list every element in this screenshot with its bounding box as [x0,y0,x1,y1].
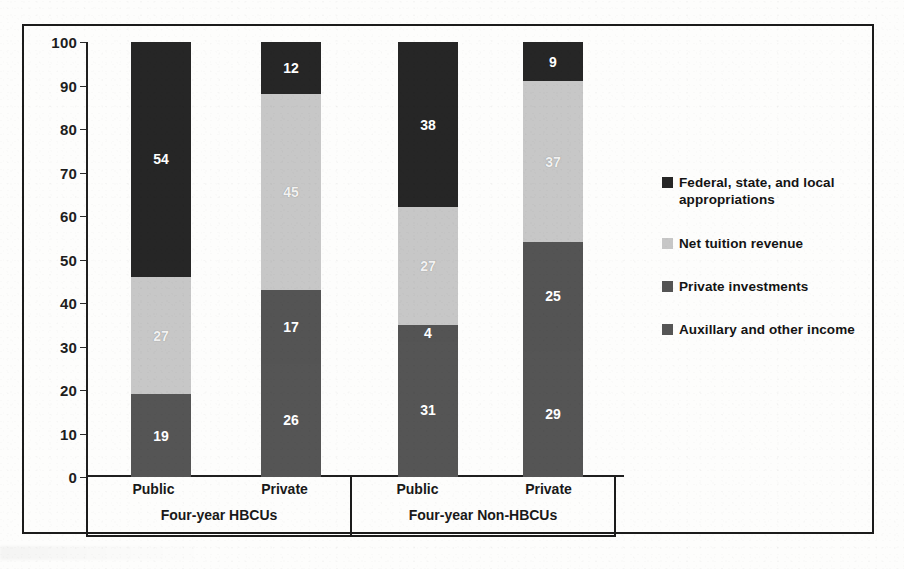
y-axis-tick-mark [80,303,86,304]
bar-segment[interactable]: 38 [398,42,458,207]
legend-label: Net tuition revenue [679,235,803,252]
x-axis-group-label: Four-year Non-HBCUs [352,507,614,523]
bar-segment[interactable]: 19 [131,394,191,477]
y-axis-tick-mark [80,86,86,87]
legend-item[interactable]: Private investments [662,278,862,295]
y-axis-tick-label: 30 [60,338,77,355]
y-axis-tick-label: 100 [51,34,77,51]
legend-swatch-icon [662,324,673,335]
chart-frame: 1927542617451231427382925379 01020304050… [22,24,874,534]
x-axis-group: PublicPrivateFour-year HBCUs [88,477,350,535]
bar-segment[interactable]: 26 [261,364,321,477]
y-axis-tick-mark [80,434,86,435]
y-axis-tick-label: 80 [60,121,77,138]
stacked-bar[interactable]: 26174512 [261,42,321,477]
legend-swatch-icon [662,281,673,292]
y-axis-tick-mark [80,173,86,174]
bar-series-container: 1927542617451231427382925379 [86,42,616,477]
bar-segment[interactable]: 9 [523,42,583,81]
bar-segment[interactable]: 25 [523,242,583,351]
bar-segment[interactable]: 27 [398,207,458,324]
x-axis-group-box: PublicPrivateFour-year HBCUsPublicPrivat… [86,477,616,537]
y-axis-tick-mark [80,390,86,391]
chart-legend: Federal, state, and local appropriations… [662,174,862,364]
y-axis-tick-mark [80,216,86,217]
y-axis-tick-label: 0 [68,469,77,486]
bar-segment[interactable]: 31 [398,342,458,477]
bar-segment[interactable]: 29 [523,351,583,477]
x-axis-category-label: Public [88,481,219,505]
y-axis-tick-mark [80,42,86,43]
bar-segment[interactable]: 17 [261,290,321,364]
y-axis-tick-mark [80,129,86,130]
legend-item[interactable]: Net tuition revenue [662,235,862,252]
plot-area: 1927542617451231427382925379 01020304050… [86,42,616,477]
y-axis-tick-label: 50 [60,251,77,268]
bar-segment[interactable]: 37 [523,81,583,242]
legend-label: Auxillary and other income [679,321,855,338]
legend-item[interactable]: Federal, state, and local appropriations [662,174,862,209]
stacked-bar[interactable]: 3142738 [398,42,458,477]
y-axis-tick-label: 90 [60,77,77,94]
x-axis-group: PublicPrivateFour-year Non-HBCUs [350,477,614,535]
bar-segment[interactable]: 27 [131,277,191,394]
legend-swatch-icon [662,177,673,188]
legend-item[interactable]: Auxillary and other income [662,321,862,338]
y-axis-tick-mark [80,347,86,348]
x-axis-category-label: Private [483,481,614,505]
y-axis-tick-label: 20 [60,382,77,399]
scan-smudge [0,546,210,560]
bar-segment[interactable]: 54 [131,42,191,277]
x-axis-group-label: Four-year HBCUs [88,507,350,523]
y-axis-tick-label: 60 [60,208,77,225]
stacked-bar[interactable]: 192754 [131,42,191,477]
bar-segment[interactable]: 12 [261,42,321,94]
legend-swatch-icon [662,238,673,249]
y-axis-tick-mark [80,260,86,261]
legend-label: Federal, state, and local appropriations [679,174,862,209]
bar-segment[interactable]: 4 [398,325,458,342]
x-axis-category-row: PublicPrivate [352,481,614,505]
y-axis-tick-label: 70 [60,164,77,181]
y-axis-tick-label: 10 [60,425,77,442]
x-axis-category-label: Private [219,481,350,505]
bar-segment[interactable]: 45 [261,94,321,290]
x-axis-category-row: PublicPrivate [88,481,350,505]
y-axis-tick-label: 40 [60,295,77,312]
legend-label: Private investments [679,278,808,295]
x-axis-category-label: Public [352,481,483,505]
stacked-bar[interactable]: 2925379 [523,42,583,477]
